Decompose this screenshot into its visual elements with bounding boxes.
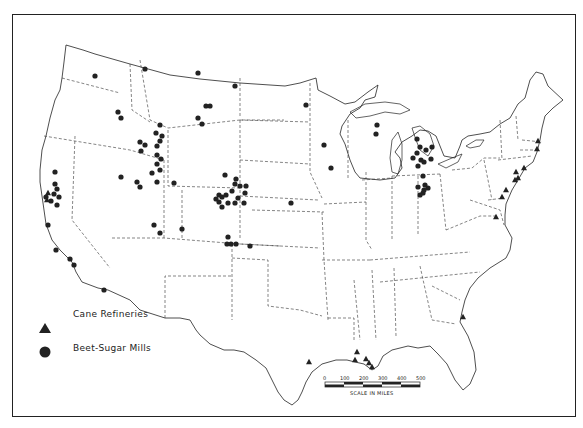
legend-cane-refineries-label: Cane Refineries (73, 309, 148, 319)
beet-sugar-mill-marker (415, 184, 420, 189)
beet-sugar-mill-marker (374, 122, 379, 127)
beet-sugar-mill-marker (151, 222, 156, 227)
beet-sugar-mill-marker (157, 138, 162, 143)
cane-refinery-marker (306, 359, 312, 364)
beet-sugar-mill-marker (159, 133, 164, 138)
cane-refinery-marker (534, 146, 540, 151)
beet-sugar-mill-marker (428, 156, 433, 161)
beet-sugar-mill-marker (420, 173, 425, 178)
beet-sugar-mill-marker (229, 188, 234, 193)
beet-sugar-mill-marker (154, 161, 159, 166)
beet-sugar-mill-marker (52, 169, 57, 174)
beet-sugar-mill-marker (223, 192, 228, 197)
beet-sugar-mill-marker (429, 144, 434, 149)
beet-sugar-mill-marker (417, 192, 422, 197)
beet-sugar-mill-marker (137, 184, 142, 189)
cane-refineries (44, 138, 541, 369)
beet-sugar-mill-marker (67, 256, 72, 261)
beet-sugar-mill-marker (233, 241, 238, 246)
beet-sugar-mill-marker (243, 183, 248, 188)
cane-refinery-marker (513, 169, 519, 174)
beet-sugar-mill-marker (154, 143, 159, 148)
beet-sugar-mill-marker (288, 200, 293, 205)
cane-refinery-marker (363, 356, 369, 361)
beet-sugar-mill-marker (51, 191, 56, 196)
beet-sugar-mill-marker (232, 83, 237, 88)
legend-triangle-icon (39, 323, 51, 333)
beet-sugar-mill-marker (303, 102, 308, 107)
beet-sugar-mill-marker (134, 179, 139, 184)
scale-tick-300: 300 (378, 375, 388, 381)
beet-sugar-mill-marker (53, 247, 58, 252)
beet-sugar-mill-marker (154, 152, 159, 157)
legend-circle-icon (40, 347, 51, 358)
beet-sugar-mill-marker (158, 156, 163, 161)
scale-tick-100: 100 (340, 375, 350, 381)
beet-sugar-mill-marker (157, 230, 162, 235)
beet-sugar-mill-marker (417, 144, 422, 149)
beet-sugar-mill-marker (415, 163, 420, 168)
beet-sugar-mill-marker (233, 176, 238, 181)
scale-bar (325, 382, 420, 387)
beet-sugar-mill-marker (414, 150, 419, 155)
cane-refinery-marker (503, 187, 509, 192)
beet-sugar-mill-marker (92, 73, 97, 78)
beet-sugar-mill-marker (222, 172, 227, 177)
beet-sugar-mill-marker (247, 243, 252, 248)
beet-sugar-mill-marker (54, 202, 59, 207)
scale-tick-400: 400 (397, 375, 407, 381)
legend-beet-sugar-mills-label: Beet-Sugar Mills (73, 343, 151, 353)
beet-sugar-mill-marker (225, 200, 230, 205)
beet-sugar-mill-marker (232, 200, 237, 205)
beet-sugar-mill-marker (242, 190, 247, 195)
beet-sugar-mill-marker (321, 142, 326, 147)
beet-sugar-mill-marker (52, 181, 57, 186)
scale-tick-500: 500 (416, 375, 426, 381)
beet-sugar-mill-marker (115, 109, 120, 114)
scale-tick-0: 0 (323, 375, 326, 381)
beet-sugar-mill-marker (54, 186, 59, 191)
scale-title: SCALE IN MILES (350, 390, 394, 396)
us-map (0, 0, 583, 428)
beet-sugar-mill-marker (137, 139, 142, 144)
beet-sugar-mill-marker (195, 115, 200, 120)
cane-refinery-marker (499, 194, 505, 199)
beet-sugar-mill-marker (423, 147, 428, 152)
cane-refinery-marker (352, 357, 358, 362)
beet-sugar-mill-marker (410, 155, 415, 160)
beet-sugar-mill-marker (199, 121, 204, 126)
beet-sugar-mill-marker (373, 131, 378, 136)
beet-sugar-mill-marker (219, 204, 224, 209)
beet-sugar-mill-marker (153, 130, 158, 135)
beet-sugar-mill-marker (118, 115, 123, 120)
scale-tick-200: 200 (359, 375, 369, 381)
beet-sugar-mill-marker (101, 287, 106, 292)
beet-sugar-mill-marker (235, 195, 240, 200)
beet-sugar-mill-marker (157, 122, 162, 127)
beet-sugar-mill-marker (224, 241, 229, 246)
beet-sugar-mill-marker (421, 159, 426, 164)
beet-sugar-mill-marker (414, 136, 419, 141)
beet-sugar-mill-marker (45, 222, 50, 227)
beet-sugar-mill-marker (232, 181, 237, 186)
cane-refinery-marker (45, 190, 51, 195)
beet-sugar-mill-marker (171, 180, 176, 185)
beet-sugar-mill-marker (241, 200, 246, 205)
state-boundaries (44, 60, 542, 340)
beet-sugar-mill-marker (207, 103, 212, 108)
beet-sugar-mill-marker (149, 170, 154, 175)
beet-sugar-mill-marker (179, 226, 184, 231)
beet-sugar-mill-marker (216, 199, 221, 204)
beet-sugar-mill-marker (225, 234, 230, 239)
beet-sugar-mill-marker (71, 262, 76, 267)
beet-sugar-mill-marker (154, 179, 159, 184)
beet-sugar-mill-marker (157, 167, 162, 172)
lake-erie (438, 154, 462, 168)
beet-sugar-mill-marker (118, 174, 123, 179)
cane-refinery-marker (493, 214, 499, 219)
lake-superior (350, 102, 410, 118)
beet-sugar-mill-marker (195, 70, 200, 75)
cane-refinery-marker (354, 349, 360, 354)
beet-sugar-mill-marker (56, 194, 61, 199)
beet-sugar-mill-marker (328, 165, 333, 170)
